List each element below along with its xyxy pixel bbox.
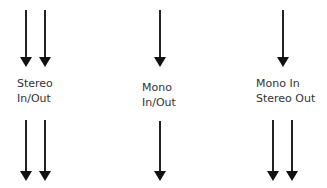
mode-label: Stereo In/Out (17, 76, 53, 106)
output-arrow-right-icon (44, 120, 46, 172)
input-arrow-icon (282, 10, 284, 58)
output-arrow-left-icon (272, 120, 274, 172)
input-arrow-left-icon (25, 10, 27, 58)
output-arrow-icon (159, 121, 161, 172)
input-arrow-right-icon (44, 10, 46, 58)
mode-label: Mono In/Out (142, 80, 176, 110)
input-arrow-icon (159, 10, 161, 58)
mode-label: Mono In Stereo Out (256, 76, 315, 106)
output-arrow-left-icon (25, 120, 27, 172)
output-arrow-right-icon (291, 120, 293, 172)
